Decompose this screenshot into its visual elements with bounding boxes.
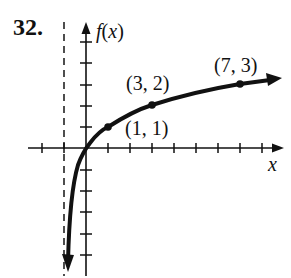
y-axis-label: f(x) <box>96 20 124 43</box>
point-7-3 <box>236 80 244 88</box>
point-3-2 <box>148 101 156 109</box>
x-axis-arrow-icon <box>272 144 284 153</box>
x-axis <box>28 143 284 153</box>
function-graph: f(x) x (1, 1) (3, 2) (7, 3) <box>0 0 291 278</box>
point-label-3-2: (3, 2) <box>126 72 169 95</box>
y-axis-arrow-icon <box>82 22 91 34</box>
point-label-1-1: (1, 1) <box>125 117 168 140</box>
curve-arrow-right-icon <box>266 73 282 86</box>
point-label-7-3: (7, 3) <box>214 54 257 77</box>
function-curve <box>68 80 270 262</box>
x-axis-label: x <box>267 153 277 175</box>
point-1-1 <box>104 123 112 131</box>
